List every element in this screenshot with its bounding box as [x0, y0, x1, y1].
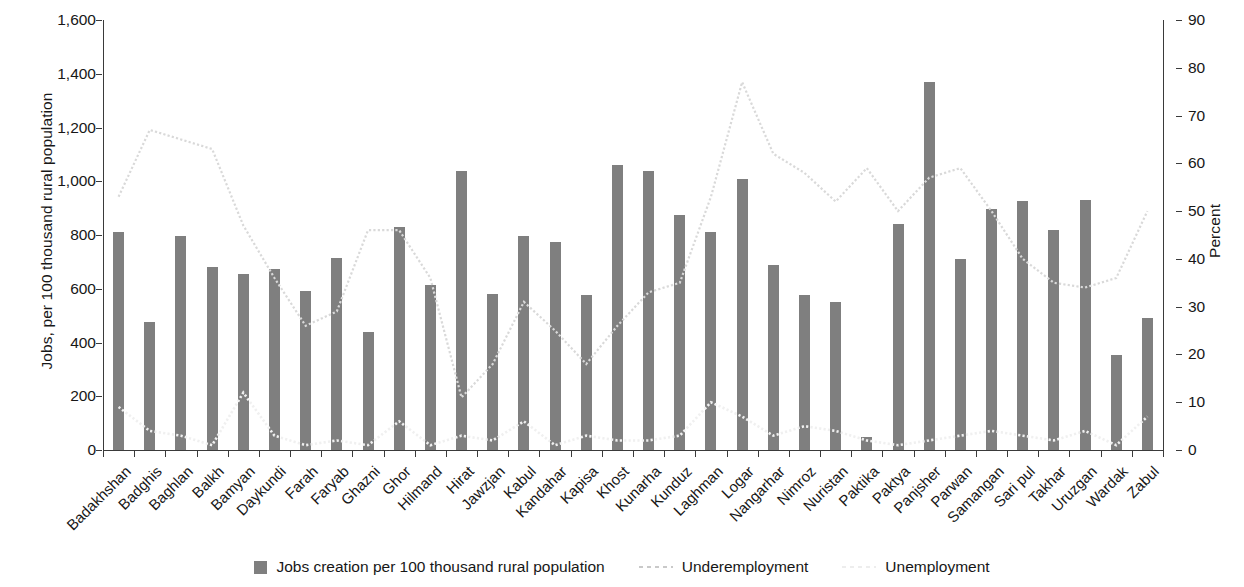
- dotted-line-icon-unemployment: [842, 566, 876, 568]
- chart-legend: Jobs creation per 100 thousand rural pop…: [0, 552, 1244, 582]
- legend-item-unemployment: Unemployment: [842, 558, 989, 576]
- dotted-line-icon-underemployment: [639, 566, 673, 568]
- legend-label-unemployment: Unemployment: [885, 558, 989, 576]
- legend-item-jobs: Jobs creation per 100 thousand rural pop…: [254, 558, 604, 576]
- chart-container: Jobs, per 100 thousand rural population …: [0, 0, 1244, 587]
- x-axis-category-labels: BadakhshanBadghisBaghlanBalkhBamyanDayku…: [0, 0, 1244, 587]
- legend-item-underemployment: Underemployment: [639, 558, 809, 576]
- legend-label-underemployment: Underemployment: [682, 558, 809, 576]
- legend-label-jobs: Jobs creation per 100 thousand rural pop…: [276, 558, 604, 576]
- bar-swatch-icon: [254, 561, 267, 574]
